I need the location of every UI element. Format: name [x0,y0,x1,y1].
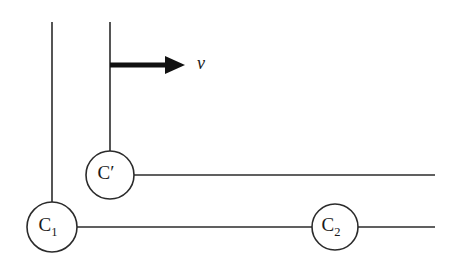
node-c-one-label-subscript: 1 [51,225,57,239]
node-c-prime-label-prime: ′ [110,162,114,183]
node-c-prime-label: C′ [98,162,115,183]
figure-root: v C′ C1 C2 [0,0,457,267]
velocity-label: v [197,53,205,73]
node-c-two-label-base: C [322,214,335,235]
node-c-two-label-subscript: 2 [334,225,340,239]
node-c-two: C2 [312,204,358,250]
node-c-prime: C′ [86,151,134,199]
node-c-one: C1 [27,202,77,252]
node-c-one-label-base: C [39,214,52,235]
diagram-canvas: v C′ C1 C2 [0,0,457,267]
node-c-prime-label-base: C [98,162,111,183]
